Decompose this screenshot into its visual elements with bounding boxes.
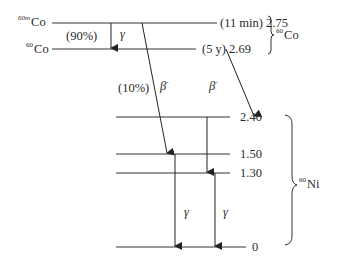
label-co60: 60 Co — [26, 43, 49, 56]
group-label-ni: 60 Ni — [299, 178, 320, 191]
mass-number: 60 — [276, 27, 283, 35]
brace-ni — [285, 115, 297, 245]
mass-number: 60 — [26, 41, 33, 49]
beta-sign: - — [215, 78, 217, 86]
group-label-co: 60 Co — [276, 29, 299, 42]
element-symbol: Ni — [307, 177, 320, 191]
energy-co60: (5 y) 2.69 — [202, 43, 251, 56]
beta-sign: - — [166, 78, 168, 86]
half-life: (5 y) — [202, 42, 226, 56]
beta-arrow-main — [226, 49, 254, 116]
element-symbol: Co — [31, 15, 46, 29]
branch-90: (90%) — [66, 30, 97, 43]
branch-10: (10%) — [118, 82, 149, 95]
gamma-label-1.50-0: γ — [184, 206, 189, 219]
element-symbol: Co — [34, 42, 49, 56]
element-symbol: Co — [284, 28, 299, 42]
energy-ni-2.40: 2.40 — [240, 111, 262, 124]
gamma-label-isomeric: γ — [120, 28, 125, 41]
energy-ni-1.50: 1.50 — [240, 148, 262, 161]
energy-ni-0: 0 — [252, 241, 258, 254]
mass-number: 60 — [299, 176, 306, 184]
energy-ni-1.30: 1.30 — [240, 167, 262, 180]
half-life: (11 min) — [220, 16, 263, 30]
energy-value: 2.69 — [229, 42, 251, 56]
beta-label-10pct: β- — [160, 80, 169, 93]
mass-number: 60m — [18, 14, 30, 22]
gamma-label-1.30-0: γ — [223, 206, 228, 219]
label-co60m: 60m Co — [18, 16, 46, 29]
beta-label-main: β- — [209, 80, 218, 93]
